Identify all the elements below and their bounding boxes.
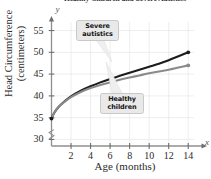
y-tick-label: 30 (26, 134, 44, 144)
callout-severe-autistics: Severe autistics (76, 20, 119, 41)
x-tick-label: 2 (64, 151, 78, 161)
gridlines (52, 22, 195, 146)
x-tick-label: 12 (162, 151, 176, 161)
y-axis-letter: y (56, 4, 60, 14)
x-tick-label: 8 (123, 151, 137, 161)
callout-severe-line2: autistics (80, 31, 115, 39)
x-tick-label: 14 (181, 151, 195, 161)
x-axis-letter: x (205, 137, 209, 147)
callout-healthy-children: Healthy children (100, 93, 144, 114)
x-tick-label: 10 (142, 151, 156, 161)
y-tick-label: 40 (26, 91, 44, 101)
x-tick-label: 6 (103, 151, 117, 161)
callout-healthy-line2: children (104, 104, 140, 112)
x-tick-label: 4 (84, 151, 98, 161)
y-tick-label: 50 (26, 47, 44, 57)
y-tick-label: 55 (26, 26, 44, 36)
y-tick-label: 45 (26, 69, 44, 79)
axes (49, 16, 207, 149)
y-tick-label: 35 (26, 113, 44, 123)
chart-container: Healthy Children and Severe Autistics He… (0, 0, 211, 179)
